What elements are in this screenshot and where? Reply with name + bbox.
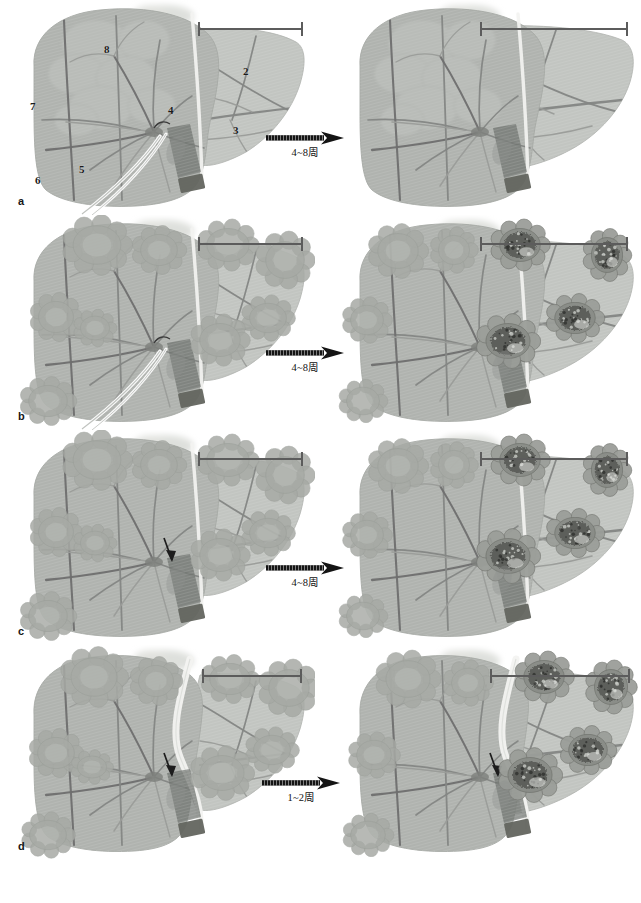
tumor-nodule — [20, 377, 76, 426]
arrow-duration-label: 4~8周 — [266, 574, 344, 589]
liver-before-c — [4, 430, 315, 645]
segment-label-8: 8 — [104, 44, 110, 55]
tumor-nodule — [343, 512, 393, 558]
arrow-icon — [266, 346, 344, 360]
bracket-bar — [198, 243, 303, 245]
panel-letter-c: c — [18, 626, 24, 637]
segment-label-6: 6 — [35, 175, 41, 186]
transition-arrow-a: 4~8周 — [266, 131, 344, 161]
liver-regeneration-figure: 8243756a4~8周b4~8周c4~8周d1~2周 — [0, 0, 641, 903]
bracket-tick-right — [301, 22, 303, 36]
bracket-tick-left — [490, 669, 492, 683]
liver-before-a — [4, 0, 315, 215]
bracket-tick-right — [628, 669, 630, 683]
bracket-bar — [198, 28, 303, 30]
tumor-nodule — [339, 594, 388, 637]
tumor-nodule — [343, 297, 393, 343]
arrow-duration-label: 1~2周 — [262, 789, 340, 804]
segment-label-2: 2 — [243, 66, 249, 77]
hepatic-hilum — [471, 772, 489, 782]
transition-arrow-c: 4~8周 — [266, 561, 344, 591]
bracket-bar — [202, 675, 302, 677]
measurement-bracket — [202, 669, 302, 683]
panel-letter-a: a — [18, 196, 24, 207]
measurement-bracket — [198, 237, 303, 251]
tumor-nodule — [20, 592, 76, 641]
liver-after-a — [330, 0, 641, 215]
bracket-tick-right — [300, 669, 302, 683]
row-c — [0, 430, 641, 645]
segment-label-5: 5 — [79, 164, 85, 175]
tumor-nodule — [349, 732, 401, 778]
arrow-duration-label: 4~8周 — [266, 359, 344, 374]
measurement-bracket — [198, 452, 303, 466]
liver-after-b — [330, 215, 641, 430]
liver-after-c — [330, 430, 641, 645]
measurement-bracket — [480, 22, 628, 36]
segment-label-3: 3 — [233, 125, 239, 136]
row-d — [0, 645, 641, 860]
bracket-bar — [480, 243, 628, 245]
measurement-bracket — [480, 452, 628, 466]
bracket-tick-right — [301, 237, 303, 251]
liver-before-d — [4, 645, 315, 860]
tumor-nodule — [22, 812, 76, 858]
segment-label-4: 4 — [168, 105, 174, 116]
bracket-bar — [490, 675, 630, 677]
bracket-bar — [198, 458, 303, 460]
panel-letter-d: d — [18, 841, 25, 852]
arrow-icon — [266, 561, 344, 575]
bracket-bar — [480, 28, 628, 30]
arrow-icon — [262, 776, 340, 790]
arrow-icon — [266, 131, 344, 145]
liver-before-b — [4, 215, 315, 430]
bracket-tick-left — [198, 452, 200, 466]
bracket-bar — [480, 458, 628, 460]
tumor-nodule — [339, 379, 388, 422]
bracket-tick-right — [626, 22, 628, 36]
bracket-tick-left — [202, 669, 204, 683]
row-a: 8243756 — [0, 0, 641, 215]
hepatic-hilum — [145, 557, 163, 567]
bracket-tick-left — [480, 22, 482, 36]
row-b — [0, 215, 641, 430]
bracket-tick-left — [480, 237, 482, 251]
tumor-nodule — [343, 813, 394, 856]
transition-arrow-d: 1~2周 — [262, 776, 340, 806]
bracket-tick-left — [198, 237, 200, 251]
measurement-bracket — [480, 237, 628, 251]
bracket-tick-right — [301, 452, 303, 466]
measurement-bracket — [490, 669, 630, 683]
bracket-tick-right — [626, 237, 628, 251]
segment-label-7: 7 — [30, 101, 36, 112]
measurement-bracket — [198, 22, 303, 36]
bracket-tick-right — [626, 452, 628, 466]
transition-arrow-b: 4~8周 — [266, 346, 344, 376]
liver-after-d — [330, 645, 641, 860]
bracket-tick-left — [198, 22, 200, 36]
hepatic-hilum — [471, 127, 489, 137]
bracket-tick-left — [480, 452, 482, 466]
panel-letter-b: b — [18, 411, 25, 422]
arrow-duration-label: 4~8周 — [266, 144, 344, 159]
hepatic-hilum — [145, 772, 163, 782]
